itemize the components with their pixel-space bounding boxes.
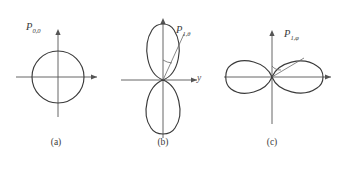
panel-c-horizontal-axis-arrowhead <box>325 74 331 79</box>
panel-c-vertical-axis-arrowhead <box>269 30 274 36</box>
panel-c-curve-label: P1,φ <box>284 29 299 42</box>
panel-c-radius-leader-line <box>272 58 304 77</box>
panel-c-graphic <box>0 0 348 169</box>
figure-root: P0,0 (a) P1,θ y (b) <box>0 0 348 169</box>
panel-c-curve-label-subscript: 1,φ <box>290 34 298 41</box>
panel-c-caption: (c) <box>252 137 292 147</box>
